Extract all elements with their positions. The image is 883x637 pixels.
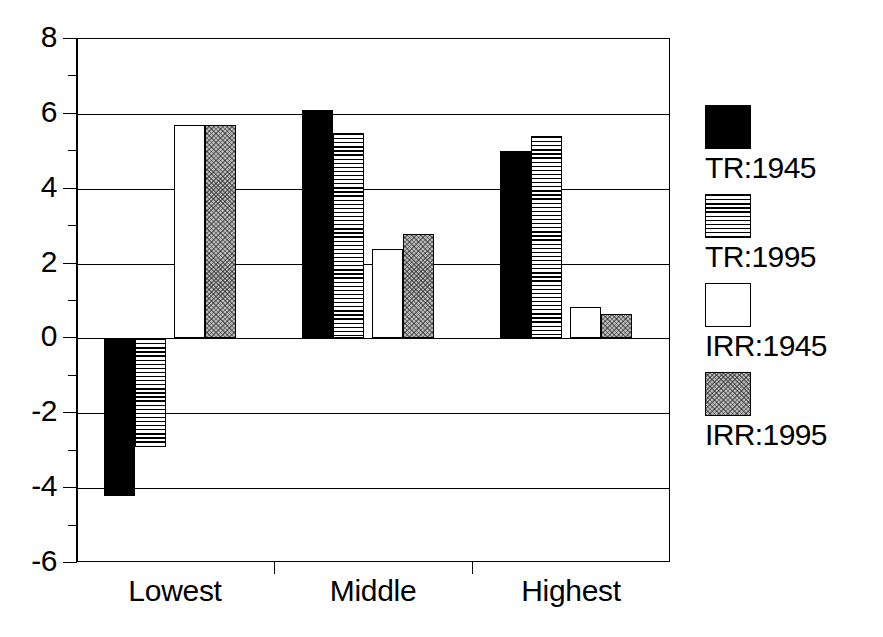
x-category-label-middle: Middle	[274, 574, 472, 608]
y-tick-label: 2	[5, 247, 57, 277]
y-tick-major	[63, 263, 77, 264]
x-tick	[472, 562, 473, 574]
legend-item-label: TR:1945	[705, 150, 880, 186]
y-tick-major	[63, 487, 77, 488]
gridline	[78, 114, 669, 115]
legend-item-irr-1945[interactable]: IRR:1945	[705, 283, 880, 364]
y-tick-major	[63, 562, 77, 563]
solid-black-swatch	[705, 105, 751, 149]
zero-line	[78, 338, 669, 339]
y-tick-label: 4	[5, 172, 57, 202]
y-tick-label: 6	[5, 97, 57, 127]
legend-item-irr-1995[interactable]: IRR:1995	[705, 372, 880, 453]
bar-tr-1995-lowest	[135, 338, 166, 447]
gridline	[78, 413, 669, 414]
legend-item-tr-1995[interactable]: TR:1995	[705, 194, 880, 275]
bar-irr-1945-lowest	[174, 125, 205, 338]
y-tick-label: -4	[5, 471, 57, 501]
y-tick-label: 0	[5, 321, 57, 351]
y-tick-major	[63, 412, 77, 413]
legend-item-tr-1945[interactable]: TR:1945	[705, 105, 880, 186]
white-swatch	[705, 283, 751, 327]
y-tick-major	[63, 113, 77, 114]
x-category-label-lowest: Lowest	[76, 574, 274, 608]
bar-irr-1995-middle	[403, 234, 434, 339]
x-tick	[274, 562, 275, 574]
bar-tr-1995-middle	[333, 133, 364, 339]
horizontal-hatch-swatch	[705, 194, 751, 238]
y-tick-label: -2	[5, 396, 57, 426]
plot-area	[76, 38, 670, 562]
y-tick-major	[63, 188, 77, 189]
chart-figure: 86420-2-4-6 LowestMiddleHighest TR:1945T…	[0, 0, 883, 637]
legend-item-label: TR:1995	[705, 239, 880, 275]
legend-item-label: IRR:1945	[705, 328, 880, 364]
y-tick-label: -6	[5, 546, 57, 576]
gridline	[78, 488, 669, 489]
gray-checker-swatch	[705, 372, 751, 416]
bar-tr-1945-highest	[500, 151, 531, 338]
bar-tr-1995-highest	[531, 136, 562, 338]
bar-irr-1945-highest	[570, 307, 601, 339]
x-category-label-highest: Highest	[472, 574, 670, 608]
y-tick-label: 8	[5, 22, 57, 52]
y-tick-major	[63, 337, 77, 338]
bar-tr-1945-middle	[302, 110, 333, 338]
bar-irr-1995-lowest	[205, 125, 236, 338]
gridline	[78, 189, 669, 190]
chart-legend: TR:1945TR:1995IRR:1945IRR:1995	[705, 105, 880, 461]
bar-irr-1995-highest	[601, 314, 632, 338]
y-tick-major	[63, 38, 77, 39]
legend-item-label: IRR:1995	[705, 417, 880, 453]
bar-irr-1945-middle	[372, 249, 403, 339]
bar-tr-1945-lowest	[104, 338, 135, 495]
